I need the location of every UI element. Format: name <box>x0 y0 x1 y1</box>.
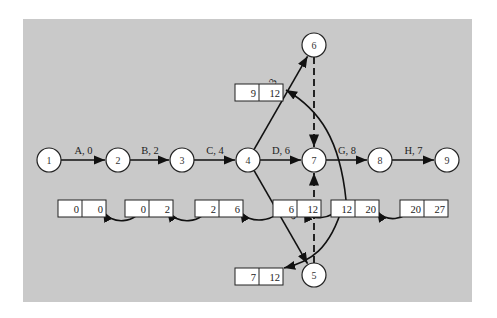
latest-time: 20 <box>366 204 377 215</box>
time-box: 1220 <box>331 200 379 217</box>
node-label: 4 <box>246 155 251 166</box>
time-box: 26 <box>195 200 243 217</box>
event-node-3: 3 <box>170 148 194 172</box>
latest-time: 2 <box>165 204 170 215</box>
event-node-8: 8 <box>368 148 392 172</box>
earliest-time: 7 <box>251 272 256 283</box>
time-box: 02 <box>125 200 173 217</box>
event-node-2: 2 <box>106 148 130 172</box>
event-node-5: 5 <box>302 263 326 287</box>
node-label: 7 <box>312 155 317 166</box>
time-box: 2027 <box>400 200 448 217</box>
node-label: 9 <box>445 155 450 166</box>
latest-time: 6 <box>235 204 240 215</box>
earliest-time: 0 <box>141 204 146 215</box>
earliest-time: 12 <box>342 204 353 215</box>
time-box: 00 <box>58 200 106 217</box>
activity-label: A, 0 <box>74 145 92 156</box>
node-label: 6 <box>312 40 317 51</box>
activity-label: G, 8 <box>338 145 356 156</box>
node-label: 5 <box>312 270 317 281</box>
activity-label: B, 2 <box>141 145 159 156</box>
event-node-9: 9 <box>435 148 459 172</box>
node-label: 2 <box>116 155 121 166</box>
activity-label: H, 7 <box>404 145 422 156</box>
latest-time: 12 <box>270 88 281 99</box>
earliest-time: 0 <box>74 204 79 215</box>
time-box: 712 <box>235 268 283 285</box>
network-diagram: A, 0B, 2C, 4D, 6E, 3F, 5G, 8H, 7 0002266… <box>0 0 497 318</box>
time-box: 612 <box>273 200 321 217</box>
event-node-1: 1 <box>37 148 61 172</box>
node-label: 3 <box>180 155 185 166</box>
earliest-time: 20 <box>411 204 422 215</box>
node-label: 8 <box>378 155 383 166</box>
event-node-7: 7 <box>302 148 326 172</box>
earliest-time: 6 <box>289 204 294 215</box>
latest-time: 12 <box>308 204 319 215</box>
latest-time: 0 <box>98 204 103 215</box>
time-box: 912 <box>235 84 283 101</box>
latest-time: 12 <box>270 272 281 283</box>
activity-label: C, 4 <box>206 145 224 156</box>
activity-label: D, 6 <box>272 145 290 156</box>
earliest-time: 9 <box>251 88 256 99</box>
event-node-6: 6 <box>302 33 326 57</box>
earliest-time: 2 <box>211 204 216 215</box>
event-node-4: 4 <box>236 148 260 172</box>
node-label: 1 <box>47 155 52 166</box>
latest-time: 27 <box>435 204 446 215</box>
